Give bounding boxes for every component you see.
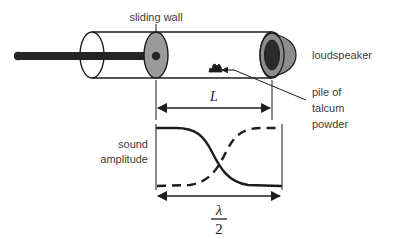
sound-amplitude-label-line2: amplitude	[100, 153, 148, 165]
powder-label-line3: powder	[312, 118, 348, 130]
powder-label-line2: talcum	[312, 102, 344, 114]
graph-curve-solid	[157, 128, 281, 186]
sliding-wall-label: sliding wall	[129, 11, 182, 23]
sliding-wall[interactable]	[144, 32, 168, 78]
loudspeaker-dust-cap	[265, 40, 280, 70]
sound-amplitude-graph: λ 2	[156, 124, 282, 237]
figure-canvas: sliding wall loudspeaker pile of talcum …	[0, 0, 400, 239]
loudspeaker-label: loudspeaker	[312, 49, 372, 61]
L-label: L	[209, 89, 218, 104]
talcum-powder-pile	[209, 64, 306, 100]
rod-wall-joint	[152, 52, 160, 60]
lambda-numerator: λ	[215, 202, 223, 218]
rod-handle-cap[interactable]	[14, 52, 22, 60]
powder-blob	[209, 64, 222, 72]
length-dimension-L: L	[156, 80, 272, 120]
push-rod[interactable]	[14, 52, 158, 60]
graph-curve-dashed	[157, 128, 281, 186]
lambda-denominator: 2	[215, 221, 223, 237]
sound-amplitude-label-line1: sound	[118, 138, 148, 150]
loudspeaker[interactable]	[260, 33, 296, 77]
powder-label-line1: pile of	[312, 86, 342, 98]
